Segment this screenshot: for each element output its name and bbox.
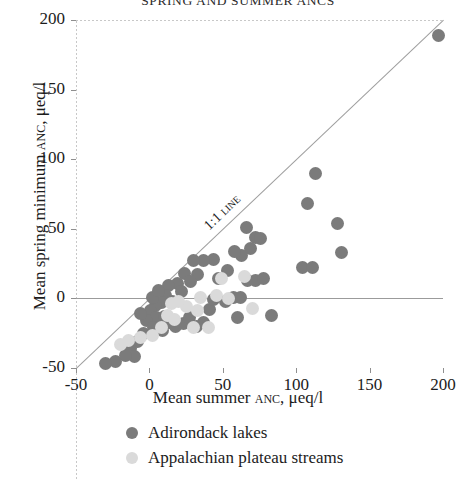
y-axis-tick xyxy=(71,90,76,91)
data-point xyxy=(187,254,200,267)
data-point xyxy=(306,261,319,274)
y-axis-label-main: Mean spring minimum xyxy=(30,150,49,310)
one-to-one-line-label: 1:1 line xyxy=(201,191,244,233)
chart-title: SPRING AND SUMMER ANCS xyxy=(0,0,476,9)
data-point xyxy=(238,270,251,283)
data-point xyxy=(194,291,207,304)
plot-area: 1:1 line xyxy=(76,20,443,368)
data-point xyxy=(331,217,344,230)
data-point xyxy=(134,331,147,344)
y-axis-tick xyxy=(71,20,76,21)
data-point xyxy=(168,313,181,326)
y-axis-tick xyxy=(71,159,76,160)
x-axis-tick xyxy=(443,368,444,373)
legend-item-appalachian-plateau-streams[interactable]: Appalachian plateau streams xyxy=(126,445,343,470)
scatter-chart-figure: SPRING AND SUMMER ANCS 1:1 line -5005010… xyxy=(0,0,476,479)
x-axis-tick xyxy=(149,368,150,373)
data-point xyxy=(432,29,445,42)
data-point xyxy=(234,291,247,304)
data-point xyxy=(99,357,112,370)
data-point xyxy=(202,321,215,334)
legend-item-label: Appalachian plateau streams xyxy=(148,448,343,468)
x-axis-tick xyxy=(223,368,224,373)
legend-item-label: Adirondack lakes xyxy=(148,423,267,443)
y-axis-label-anc: anc xyxy=(30,125,49,150)
data-point xyxy=(246,302,259,315)
y-axis-tick xyxy=(71,368,76,369)
data-point xyxy=(301,197,314,210)
data-point xyxy=(265,309,278,322)
data-point xyxy=(222,292,235,305)
data-point xyxy=(231,311,244,324)
y-axis-tick xyxy=(71,229,76,230)
data-point xyxy=(257,272,270,285)
legend-marker-icon xyxy=(126,427,138,439)
data-point xyxy=(309,167,322,180)
data-point xyxy=(114,338,127,351)
x-axis-label-main: Mean summer xyxy=(153,388,255,407)
legend-marker-icon xyxy=(126,452,138,464)
y-axis-tick xyxy=(71,298,76,299)
zero-reference-line xyxy=(76,298,443,299)
data-point xyxy=(228,245,241,258)
data-point xyxy=(254,232,267,245)
x-axis-label-anc: anc xyxy=(255,388,280,407)
data-point xyxy=(240,221,253,234)
axis-frame-top xyxy=(76,20,443,21)
data-point xyxy=(335,246,348,259)
x-axis-label: Mean summer anc, μeq/l xyxy=(0,388,476,408)
data-point xyxy=(146,329,159,342)
data-point xyxy=(152,284,165,297)
y-axis-label-tail: , μeq/l xyxy=(30,82,49,125)
one-to-one-reference-line xyxy=(76,20,444,369)
legend-item-adirondack-lakes[interactable]: Adirondack lakes xyxy=(126,420,343,445)
data-point xyxy=(187,321,200,334)
x-axis-tick xyxy=(76,368,77,373)
chart-legend: Adirondack lakes Appalachian plateau str… xyxy=(126,420,343,470)
axis-frame-right xyxy=(76,21,77,369)
x-axis-tick xyxy=(370,368,371,373)
x-axis-label-tail: , μeq/l xyxy=(280,388,323,407)
x-axis-tick xyxy=(296,368,297,373)
data-point xyxy=(215,272,228,285)
y-axis-label: Mean spring minimum anc, μeq/l xyxy=(30,6,50,386)
